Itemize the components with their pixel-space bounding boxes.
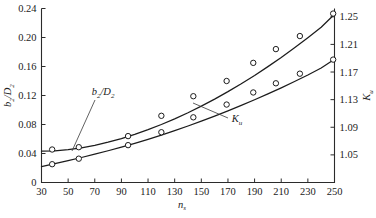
data-point-b2D2 — [273, 46, 278, 51]
chart-background — [0, 0, 376, 218]
right-tick-label: 1.13 — [340, 94, 358, 105]
left-tick-label: 0.16 — [18, 61, 36, 72]
data-point-Ku — [273, 81, 278, 86]
x-tick-label: 170 — [220, 186, 236, 197]
x-tick-label: 230 — [300, 186, 316, 197]
left-tick-label: 0.20 — [18, 32, 36, 43]
data-point-Ku — [159, 130, 164, 135]
x-tick-label: 150 — [193, 186, 209, 197]
data-point-Ku — [297, 71, 302, 76]
right-tick-label: 1.17 — [340, 67, 358, 78]
data-point-b2D2 — [330, 11, 335, 16]
left-tick-label: 0.08 — [18, 119, 36, 130]
data-point-Ku — [251, 90, 256, 95]
data-point-Ku — [49, 162, 54, 167]
data-point-Ku — [125, 142, 130, 147]
data-point-b2D2 — [125, 133, 130, 138]
data-point-Ku — [224, 102, 229, 107]
data-point-b2D2 — [191, 94, 196, 99]
x-tick-label: 50 — [63, 186, 74, 197]
data-point-b2D2 — [76, 144, 81, 149]
x-tick-label: 90 — [116, 186, 127, 197]
data-point-b2D2 — [159, 113, 164, 118]
x-tick-label: 130 — [167, 186, 183, 197]
right-tick-label: 1.09 — [340, 122, 358, 133]
left-tick-label: 0 — [31, 177, 36, 188]
data-point-Ku — [191, 115, 196, 120]
x-tick-label: 250 — [327, 186, 343, 197]
right-tick-label: 1.05 — [340, 149, 358, 160]
data-point-b2D2 — [49, 147, 54, 152]
x-tick-label: 210 — [273, 186, 289, 197]
data-point-Ku — [76, 156, 81, 161]
x-tick-label: 30 — [36, 186, 47, 197]
left-tick-label: 0.04 — [18, 148, 37, 159]
right-tick-label: 1.25 — [340, 11, 358, 22]
chart-figure: 30507090110130150170190210230250 00.040.… — [0, 0, 376, 218]
left-tick-label: 0.24 — [18, 3, 37, 14]
left-tick-label: 0.12 — [18, 90, 36, 101]
data-point-Ku — [330, 57, 335, 62]
x-tick-label: 190 — [247, 186, 263, 197]
data-point-b2D2 — [224, 78, 229, 83]
data-point-b2D2 — [251, 60, 256, 65]
right-tick-label: 1.21 — [340, 39, 358, 50]
data-point-b2D2 — [297, 33, 302, 38]
x-tick-label: 70 — [90, 186, 101, 197]
x-tick-label: 110 — [140, 186, 155, 197]
